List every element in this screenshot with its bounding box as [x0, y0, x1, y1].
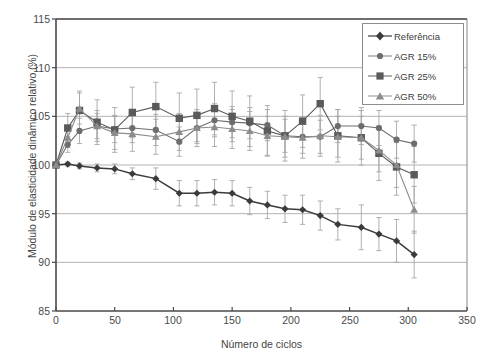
data-point [317, 100, 324, 107]
triangle-marker-icon [367, 89, 393, 103]
data-point [358, 224, 365, 231]
series-line [56, 164, 414, 255]
data-point [299, 206, 306, 213]
circle-marker-icon [367, 49, 393, 63]
data-point [129, 109, 136, 116]
data-point [246, 118, 253, 125]
data-point [152, 103, 159, 110]
data-point [193, 112, 200, 119]
legend-label: AGR 25% [394, 71, 436, 82]
legend-item-agr-15: AGR 15% [367, 46, 463, 66]
data-point [299, 118, 306, 125]
data-point [211, 117, 217, 123]
data-point [393, 137, 399, 143]
data-point [410, 206, 418, 213]
diamond-marker-icon [367, 29, 393, 43]
data-point [152, 175, 159, 182]
data-point [264, 201, 271, 208]
errorbar-group [65, 162, 417, 278]
data-point [376, 125, 382, 131]
legend-item-referencia: Referência [367, 26, 463, 46]
data-point [334, 221, 341, 228]
data-point [211, 105, 218, 112]
data-point [410, 171, 417, 178]
data-point [153, 127, 159, 133]
square-marker-icon [367, 69, 393, 83]
legend-item-agr-25: AGR 25% [367, 66, 463, 86]
data-point [281, 205, 288, 212]
data-point [193, 190, 200, 197]
chart-legend: Referência AGR 15% AGR 25% [362, 23, 464, 105]
data-point [176, 190, 183, 197]
legend-label: AGR 50% [394, 91, 436, 102]
data-point [335, 123, 341, 129]
data-point [64, 160, 71, 167]
data-point [176, 115, 183, 122]
data-point [229, 190, 236, 197]
data-point [111, 165, 118, 172]
legend-label: AGR 15% [394, 51, 436, 62]
data-point [317, 212, 324, 219]
data-point [375, 231, 382, 238]
data-point [228, 113, 235, 120]
data-point [246, 197, 253, 204]
series-agr-15- [53, 117, 417, 168]
data-point [211, 189, 218, 196]
chart-figure: Módulo de elasticidade dinâmico relativo… [0, 0, 485, 361]
legend-label: Referência [394, 31, 440, 42]
data-point [358, 123, 364, 129]
data-point [411, 140, 417, 146]
series-refer-ncia [52, 160, 417, 258]
data-point [176, 139, 182, 145]
errorbar-group [65, 93, 417, 233]
data-point [76, 128, 82, 134]
legend-item-agr-50: AGR 50% [367, 86, 463, 106]
data-point [129, 170, 136, 177]
